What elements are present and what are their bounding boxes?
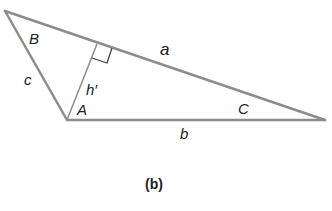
angle-a-label: A [76,101,87,118]
triangle-diagram: B c h′ A a C b (b) [0,0,332,211]
side-c-line [5,11,67,120]
side-a-line [5,11,325,120]
figure-caption: (b) [145,176,163,192]
side-c-label: c [24,71,32,88]
triangle-figure: B c h′ A a C b (b) [0,0,332,211]
side-b-label: b [180,125,188,142]
angle-c-label: C [238,100,249,117]
side-a-label: a [160,40,169,59]
altitude-label: h′ [86,81,98,98]
angle-b-label: B [29,30,39,47]
